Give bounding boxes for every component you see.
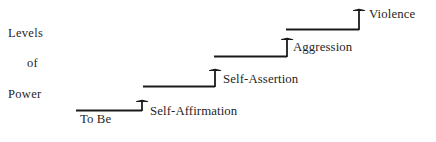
axis-caption-line-2: of: [27, 56, 38, 71]
axis-caption-line-3: Power: [8, 87, 41, 102]
diagram-canvas: Levels of Power To Be Self-Affirmation S…: [0, 0, 436, 142]
step-label-aggression: Aggression: [293, 40, 352, 55]
step-label-self-affirmation: Self-Affirmation: [150, 104, 237, 119]
step-label-to-be: To Be: [80, 112, 111, 127]
axis-caption-line-1: Levels: [8, 26, 43, 41]
step-label-violence: Violence: [369, 7, 415, 22]
step-label-self-assertion: Self-Assertion: [223, 72, 298, 87]
